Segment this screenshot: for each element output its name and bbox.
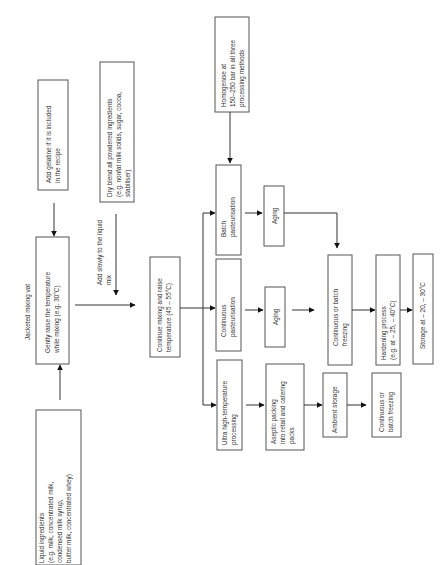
hardening-text: Hardening process (e.g. at – 25, – 40°C): [380, 301, 397, 360]
gelatine-box: [38, 80, 68, 190]
continue-mixing-text: Continue mixing and raise temperature (4…: [156, 276, 173, 352]
aging-continuous-text: Aging: [272, 308, 280, 325]
ice-cream-process-flowchart: Liquid ingredients (e.g. milk, concentra…: [0, 0, 447, 565]
line-aging-batch-to-freezing: [284, 213, 337, 248]
storage-text: Storage at – 20, – 30°C: [419, 282, 427, 349]
freezing2-text: Continuous or batch freezing: [378, 390, 395, 432]
aging-batch-text: Aging: [271, 207, 279, 224]
vat-label: Jacketed mixing vat: [24, 284, 32, 340]
ambient-storage-text: Ambient storage: [331, 386, 339, 433]
add-slowly-text: Add slowly to the liquid mix: [96, 218, 112, 285]
